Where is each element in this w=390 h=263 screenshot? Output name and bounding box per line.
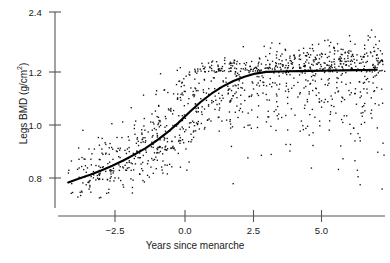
scatter-point <box>186 76 187 77</box>
scatter-point <box>360 56 361 57</box>
scatter-point <box>91 153 92 154</box>
scatter-point <box>359 63 360 64</box>
scatter-point <box>343 63 344 64</box>
scatter-point <box>299 67 300 68</box>
scatter-point <box>181 86 182 87</box>
scatter-point <box>349 35 350 36</box>
scatter-point <box>318 92 319 93</box>
scatter-point <box>187 103 188 104</box>
scatter-point <box>161 166 162 167</box>
scatter-point <box>363 88 364 89</box>
scatter-point <box>364 45 365 46</box>
scatter-point <box>316 88 317 89</box>
scatter-point <box>305 61 306 62</box>
scatter-point <box>357 170 358 171</box>
scatter-point <box>373 47 374 48</box>
scatter-point <box>330 111 331 112</box>
scatter-point <box>235 71 236 72</box>
scatter-point <box>256 84 257 85</box>
scatter-point <box>269 53 270 54</box>
scatter-point <box>262 92 263 93</box>
scatter-point <box>270 78 271 79</box>
scatter-point <box>263 77 264 78</box>
scatter-point <box>98 174 99 175</box>
scatter-point <box>286 59 287 60</box>
scatter-point <box>252 71 253 72</box>
scatter-point <box>266 121 267 122</box>
scatter-point <box>180 167 181 168</box>
scatter-point <box>364 122 365 123</box>
scatter-point <box>71 160 72 161</box>
scatter-point <box>160 146 161 147</box>
scatter-point <box>299 74 300 75</box>
scatter-point <box>93 177 94 178</box>
scatter-point <box>211 80 212 81</box>
scatter-point <box>279 43 280 44</box>
scatter-point <box>333 106 334 107</box>
scatter-point <box>162 153 163 154</box>
scatter-point <box>77 169 78 170</box>
scatter-point <box>95 165 96 166</box>
scatter-point <box>159 120 160 121</box>
scatter-point <box>107 163 108 164</box>
scatter-point <box>141 134 142 135</box>
scatter-point <box>326 64 327 65</box>
scatter-point <box>224 60 225 61</box>
scatter-point <box>184 91 185 92</box>
scatter-point <box>270 67 271 68</box>
scatter-point <box>207 120 208 121</box>
scatter-point <box>319 125 320 126</box>
scatter-point <box>183 85 184 86</box>
scatter-point <box>142 162 143 163</box>
scatter-point <box>331 67 332 68</box>
scatter-point <box>331 64 332 65</box>
scatter-point <box>346 115 347 116</box>
scatter-point <box>315 80 316 81</box>
scatter-point <box>304 108 305 109</box>
scatter-point <box>346 64 347 65</box>
scatter-point <box>366 52 367 53</box>
scatter-point <box>167 165 168 166</box>
scatter-point <box>164 149 165 150</box>
scatter-point <box>272 82 273 83</box>
scatter-point <box>182 94 183 95</box>
scatter-point <box>236 68 237 69</box>
scatter-point <box>319 54 320 55</box>
scatter-point <box>305 128 306 129</box>
scatter-point <box>176 84 177 85</box>
scatter-point <box>363 56 364 57</box>
scatter-point <box>348 90 349 91</box>
scatter-point <box>267 116 268 117</box>
scatter-point <box>215 100 216 101</box>
scatter-point <box>157 149 158 150</box>
scatter-point <box>223 81 224 82</box>
scatter-point <box>242 87 243 88</box>
scatter-point <box>342 73 343 74</box>
scatter-point <box>177 93 178 94</box>
scatter-point <box>79 167 80 168</box>
scatter-point <box>193 131 194 132</box>
scatter-point <box>351 68 352 69</box>
scatter-point <box>227 86 228 87</box>
scatter-point <box>355 88 356 89</box>
scatter-point <box>134 128 135 129</box>
scatter-point <box>271 42 272 43</box>
scatter-point <box>309 48 310 49</box>
scatter-point <box>364 54 365 55</box>
scatter-point <box>226 119 227 120</box>
scatter-point <box>156 168 157 169</box>
scatter-point <box>167 148 168 149</box>
scatter-point <box>322 54 323 55</box>
scatter-point <box>313 61 314 62</box>
scatter-point <box>78 147 79 148</box>
scatter-point <box>307 52 308 53</box>
scatter-point <box>156 90 157 91</box>
scatter-point <box>266 94 267 95</box>
scatter-point <box>197 68 198 69</box>
scatter-point <box>204 127 205 128</box>
scatter-point <box>208 62 209 63</box>
scatter-point <box>89 185 90 186</box>
scatter-point <box>166 125 167 126</box>
scatter-point <box>174 136 175 137</box>
scatter-point <box>153 147 154 148</box>
